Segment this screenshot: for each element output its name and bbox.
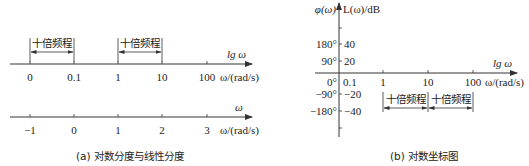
log-axis-tick-label: 10 <box>157 71 169 83</box>
log-axis-tick-label: 0 <box>27 71 33 83</box>
linear-axis-unit: ω/(rad/s) <box>220 124 259 137</box>
y-left-label: φ(ω) <box>315 3 337 16</box>
linear-axis-tick-label: 2 <box>159 124 165 136</box>
caption-b: (b) 对数坐标图 <box>390 150 458 162</box>
x-axis-unit: ω/(rad/s) <box>485 76 524 89</box>
phase-tick-label: −90° <box>315 88 337 100</box>
decade-label: 十倍频程 <box>431 93 472 105</box>
decade-label: 十倍频程 <box>386 93 427 105</box>
linear-axis-tick-label: −1 <box>24 124 36 136</box>
decade-bracket: 十倍频程 <box>383 92 428 112</box>
decade-bracket: 十倍频程 <box>118 37 162 62</box>
decade-label: 十倍频程 <box>120 37 161 49</box>
log-axis-tick-label: 0.1 <box>67 71 81 83</box>
phase-tick-label: −180° <box>310 105 337 117</box>
linear-axis: −1 0 1 2 3 ω ω/(rad/s) <box>10 101 259 137</box>
linear-axis-tick-label: 3 <box>204 124 210 136</box>
magnitude-tick-label: 40 <box>344 38 356 50</box>
caption-a: (a) 对数分度与线性分度 <box>76 150 185 162</box>
linear-axis-tick-label: 0 <box>71 124 77 136</box>
phase-tick-label: 90° <box>322 55 337 67</box>
phase-tick-label: 0° <box>327 76 337 88</box>
phase-tick-label: 180° <box>316 38 337 50</box>
x-axis-tick-label: 10 <box>423 76 435 88</box>
y-right-label: L(ω)/dB <box>343 3 380 16</box>
decade-bracket: 十倍频程 <box>30 37 74 62</box>
log-axis: 0 0.1 1 10 100 lg ω ω/(rad/s) <box>10 48 259 84</box>
log-axis-tick-label: 100 <box>199 71 216 83</box>
decade-bracket: 十倍频程 <box>429 92 473 112</box>
log-axis-unit: ω/(rad/s) <box>220 71 259 84</box>
decade-label: 十倍频程 <box>32 37 73 49</box>
log-axis-tick-label: 1 <box>115 71 121 83</box>
x-axis-tick-label: 0.1 <box>343 76 357 88</box>
panel-b: φ(ω) L(ω)/dB 180° 40 90° 20 0° −90° −20 … <box>310 3 524 162</box>
magnitude-tick-label: −20 <box>344 88 362 100</box>
x-axis-name: lg ω <box>493 57 512 69</box>
x-axis-tick-label: 1 <box>380 76 386 88</box>
x-axis-tick-label: 100 <box>465 76 482 88</box>
diagram-canvas: 0 0.1 1 10 100 lg ω ω/(rad/s) 十倍频程 十倍频程 <box>0 0 529 166</box>
magnitude-tick-label: 20 <box>344 55 356 67</box>
panel-a: 0 0.1 1 10 100 lg ω ω/(rad/s) 十倍频程 十倍频程 <box>10 37 259 162</box>
log-axis-name: lg ω <box>227 48 246 60</box>
linear-axis-tick-label: 1 <box>115 124 121 136</box>
magnitude-tick-label: −40 <box>344 105 362 117</box>
linear-axis-name: ω <box>235 101 243 113</box>
